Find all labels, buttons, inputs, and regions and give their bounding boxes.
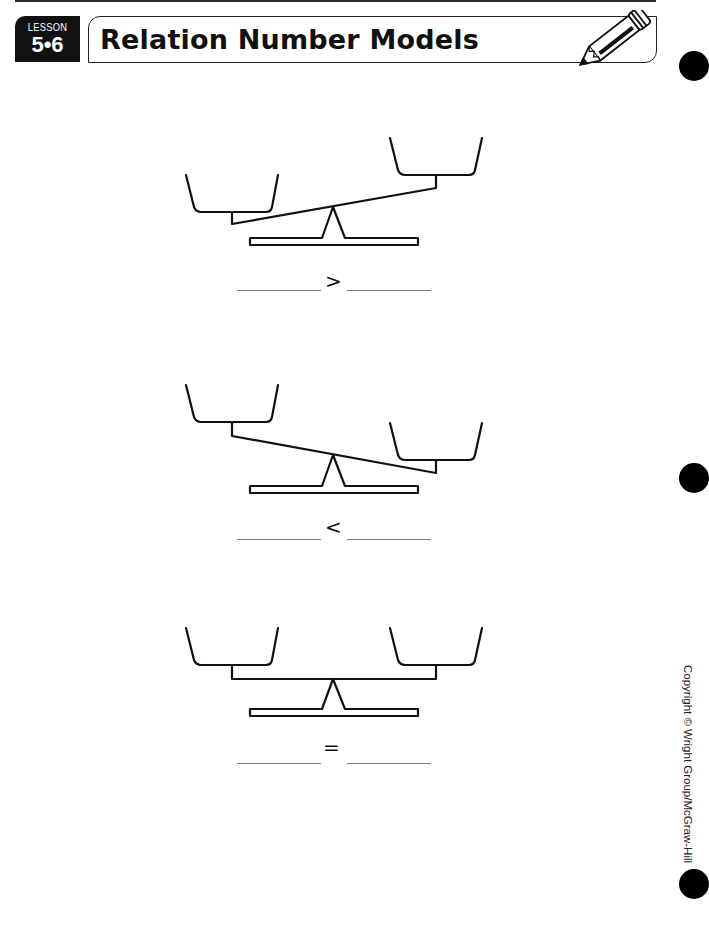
answer-blank-3-left[interactable] xyxy=(237,763,321,764)
balance-scale-1 xyxy=(186,138,482,245)
copyright-notice: Copyright © Wright Group/McGraw-Hill xyxy=(682,665,694,863)
balance-scale-2 xyxy=(186,385,482,493)
answer-blank-1-right[interactable] xyxy=(347,290,431,291)
answer-blank-2-left[interactable] xyxy=(237,539,321,540)
balance-scale-3 xyxy=(186,628,482,716)
relation-symbol-3: = xyxy=(323,737,340,757)
answer-blank-2-right[interactable] xyxy=(347,539,431,540)
answer-blank-1-left[interactable] xyxy=(237,290,321,291)
relation-symbol-1: > xyxy=(325,271,342,291)
relation-symbol-2: < xyxy=(325,517,342,537)
answer-blank-3-right[interactable] xyxy=(347,763,431,764)
